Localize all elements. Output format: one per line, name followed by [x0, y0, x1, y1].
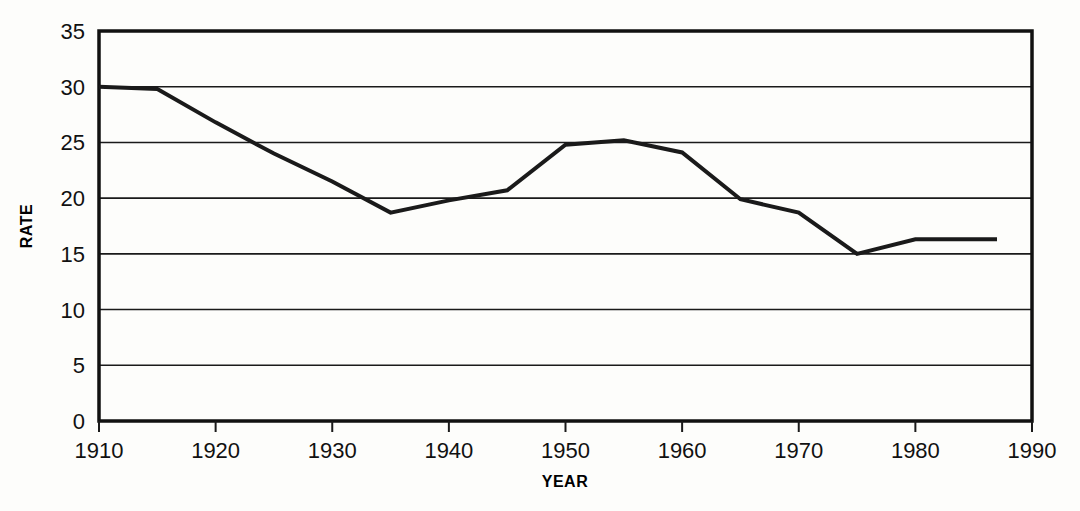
line-chart: 05101520253035 1910192019301940195019601… — [0, 0, 1080, 511]
y-tick-label-30: 30 — [61, 75, 85, 100]
x-tick-label-1990: 1990 — [1008, 438, 1057, 463]
y-tick-label-20: 20 — [61, 186, 85, 211]
x-tick-label-1980: 1980 — [891, 438, 940, 463]
chart-background — [0, 0, 1080, 511]
y-tick-label-5: 5 — [73, 353, 85, 378]
x-tick-label-1970: 1970 — [774, 438, 823, 463]
x-tick-label-group: 191019201930194019501960197019801990 — [75, 438, 1057, 463]
x-axis-title: YEAR — [542, 473, 588, 490]
x-tick-label-1910: 1910 — [75, 438, 124, 463]
x-tick-label-1950: 1950 — [541, 438, 590, 463]
x-tick-label-1920: 1920 — [191, 438, 240, 463]
y-tick-label-35: 35 — [61, 19, 85, 44]
x-tick-label-1960: 1960 — [658, 438, 707, 463]
y-tick-label-0: 0 — [73, 409, 85, 434]
chart-container: 05101520253035 1910192019301940195019601… — [0, 0, 1080, 511]
y-tick-label-25: 25 — [61, 130, 85, 155]
x-tick-label-1930: 1930 — [308, 438, 357, 463]
y-tick-label-10: 10 — [61, 298, 85, 323]
y-axis-title: RATE — [18, 204, 35, 248]
x-tick-label-1940: 1940 — [424, 438, 473, 463]
y-tick-label-15: 15 — [61, 242, 85, 267]
